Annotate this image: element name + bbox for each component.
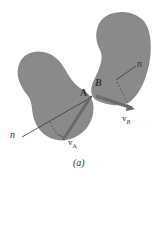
normal-label-b: n (137, 59, 142, 69)
point-label-b: B (95, 78, 102, 88)
point-label-a: A (80, 88, 87, 98)
velocity-label-a: vA (68, 138, 77, 149)
velocity-arrowhead-b (126, 104, 135, 111)
velocity-subscript-b: B (127, 119, 131, 125)
contact-point (90, 96, 92, 98)
velocity-subscript-a: A (73, 143, 77, 149)
figure-caption: (a) (73, 158, 85, 168)
velocity-label-b: vB (122, 114, 130, 125)
normal-label-a: n (10, 130, 15, 140)
